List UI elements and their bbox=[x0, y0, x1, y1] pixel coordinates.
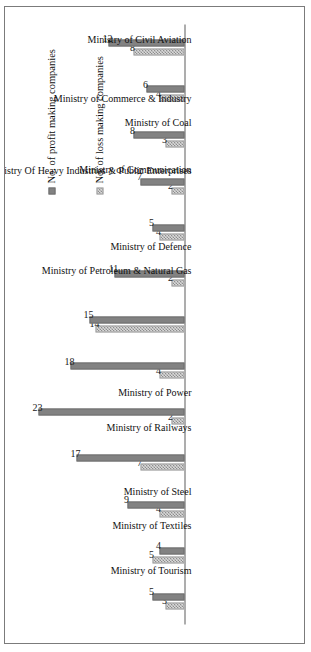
category-label: Ministry of Communication bbox=[192, 232, 203, 276]
category-label: Ministry of Coal bbox=[192, 140, 203, 184]
category-label: Ministry of Civil Aviation bbox=[192, 94, 203, 138]
bar-group: 812 bbox=[109, 26, 185, 70]
category-label: Ministry of Textiles bbox=[192, 555, 203, 599]
bar-loss: 2 bbox=[172, 187, 185, 194]
legend-item-profit: No. of profit making companies bbox=[46, 49, 58, 194]
bar-value-label: 5 bbox=[149, 587, 154, 597]
bar-loss: 3 bbox=[166, 141, 185, 148]
bar-profit: 9 bbox=[128, 501, 185, 508]
bar-loss: 3 bbox=[166, 602, 185, 609]
bar-value-label: 5 bbox=[149, 218, 154, 228]
bar-value-label: 6 bbox=[143, 79, 148, 89]
bar-group: 211 bbox=[115, 256, 185, 300]
category-label: Ministry of Steel bbox=[192, 509, 203, 553]
bar-profit: 6 bbox=[147, 86, 185, 93]
legend-label-loss: No. of loss making companies bbox=[94, 56, 106, 183]
bar-value-label: 4 bbox=[156, 541, 161, 551]
bar-loss: 7 bbox=[140, 464, 184, 471]
bar-profit: 7 bbox=[140, 178, 184, 185]
bar-profit: 4 bbox=[159, 547, 184, 554]
bar-profit: 8 bbox=[134, 132, 185, 139]
category-label: Ministry of Railways bbox=[192, 463, 203, 507]
rotated-chart-canvas: 355449717223418141521145273846812 Minist… bbox=[6, 7, 305, 643]
category-label: Ministry of Power bbox=[192, 417, 203, 461]
legend-swatch-loss bbox=[96, 188, 103, 195]
category-label: Ministry of Chemicals & Fertilizers bbox=[192, 48, 203, 92]
bar-loss: 5 bbox=[153, 556, 185, 563]
bar-loss: 4 bbox=[159, 510, 184, 517]
legend-item-loss: No. of loss making companies bbox=[94, 56, 106, 194]
legend-label-profit: No. of profit making companies bbox=[46, 49, 58, 183]
bar-loss: 2 bbox=[172, 279, 185, 286]
bar-loss: 4 bbox=[159, 372, 184, 379]
category-label: Ministry of Petroleum & Natural Gas bbox=[192, 371, 203, 415]
bar-group: 35 bbox=[153, 579, 185, 623]
category-label: Ministry Of Heavy Industries & Public En… bbox=[192, 325, 203, 369]
bar-value-label: 5 bbox=[149, 550, 154, 560]
legend-swatch-profit bbox=[48, 188, 55, 195]
category-label: Ministry of Commerce & Industry bbox=[192, 186, 203, 230]
bar-loss: 8 bbox=[134, 49, 185, 56]
bar-profit: 5 bbox=[153, 224, 185, 231]
bar-profit: 5 bbox=[153, 593, 185, 600]
bar-loss: 4 bbox=[159, 233, 184, 240]
category-axis-line bbox=[185, 25, 186, 625]
chart-frame: 355449717223418141521145273846812 Minist… bbox=[4, 6, 305, 644]
category-label: Ministry of Tourism bbox=[192, 601, 203, 644]
category-label: Ministry of Defence bbox=[192, 278, 203, 322]
chart-legend: No. of profit making companies No. of lo… bbox=[6, 25, 116, 625]
